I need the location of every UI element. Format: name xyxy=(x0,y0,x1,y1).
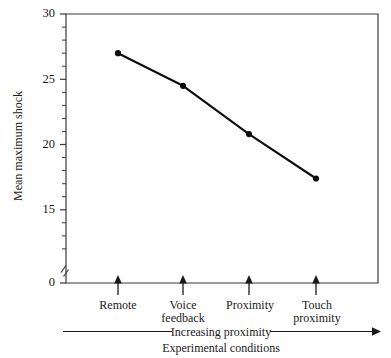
x-category-label-touch-line1: Touch xyxy=(302,298,332,312)
x-axis-title: Experimental conditions xyxy=(162,341,280,355)
arrow-head-voice-feedback xyxy=(179,275,187,284)
x-category-label-voice-line1: Voice xyxy=(169,298,196,312)
condition-arrows xyxy=(114,275,320,295)
data-point-touch-proximity xyxy=(313,175,319,181)
y-tick-label-15: 15 xyxy=(43,202,56,216)
data-series-mean-maximum-shock xyxy=(115,50,319,181)
y-tick-label-0: 0 xyxy=(49,275,55,289)
arrow-head-proximity xyxy=(245,275,253,284)
arrow-head-touch-proximity xyxy=(312,275,320,284)
arrow-head-increasing-proximity xyxy=(372,327,381,335)
x-category-label-proximity-line1: Proximity xyxy=(226,298,274,312)
plot-frame xyxy=(66,14,378,283)
x-category-label-touch-line2: proximity xyxy=(293,311,340,325)
y-tick-label-20: 20 xyxy=(43,137,56,151)
increasing-proximity-label: Increasing proximity xyxy=(171,325,271,339)
data-point-voice-feedback xyxy=(180,83,186,89)
x-category-label-remote-line1: Remote xyxy=(99,298,136,312)
axis-break-mark xyxy=(61,266,69,277)
x-category-label-voice-line2: feedback xyxy=(161,311,204,325)
data-point-remote xyxy=(115,50,121,56)
arrow-head-remote xyxy=(114,275,122,284)
y-tick-label-25: 25 xyxy=(43,72,56,86)
chart-figure: 30 25 20 15 0 Mean maximum shock Remot xyxy=(0,0,391,358)
y-axis-major-ticks xyxy=(60,14,66,283)
data-point-proximity xyxy=(246,131,252,137)
y-tick-label-30: 30 xyxy=(43,6,56,20)
y-axis-title: Mean maximum shock xyxy=(11,91,25,201)
